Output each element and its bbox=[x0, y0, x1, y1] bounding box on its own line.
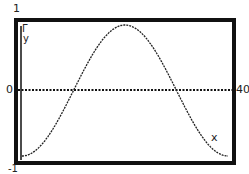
y-axis-label: y bbox=[23, 34, 29, 44]
y-zero-label: 0 bbox=[6, 84, 13, 95]
x-axis-label: x bbox=[211, 132, 218, 143]
x-max-label: 40 bbox=[236, 84, 249, 95]
plot-frame bbox=[16, 20, 234, 163]
trace-cursor-icon: Γ bbox=[22, 24, 28, 34]
y-min-label: -1 bbox=[8, 164, 18, 174]
y-max-label: 1 bbox=[13, 3, 20, 14]
graph-canvas bbox=[0, 0, 249, 174]
